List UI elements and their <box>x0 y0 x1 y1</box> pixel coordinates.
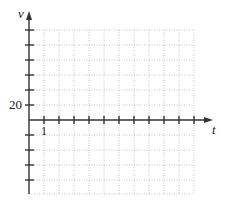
v-axis-arrow-icon <box>26 11 32 20</box>
v-axis-label: v <box>18 6 24 22</box>
y-tick-label: 20 <box>9 97 22 113</box>
grid-lines <box>29 30 194 194</box>
t-axis-label: t <box>212 122 216 138</box>
x-tick-label: 1 <box>41 124 47 139</box>
axes <box>29 17 207 194</box>
graph-grid <box>0 0 225 206</box>
